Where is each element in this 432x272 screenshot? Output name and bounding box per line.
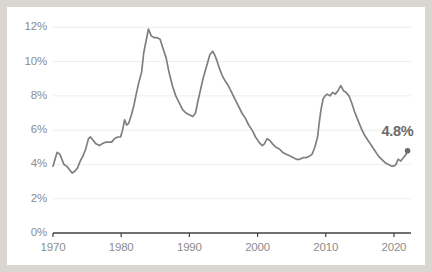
x-axis-tick-label: 2020 [371,241,417,253]
series-line-unemployment-rate [53,29,408,173]
chart-frame: 0%2%4%6%8%10%12% 19701980199020002010202… [0,0,432,272]
chart-plate: 0%2%4%6%8%10%12% 19701980199020002010202… [7,7,425,265]
y-axis-tick-label: 8% [7,89,47,101]
y-axis-tick-label: 2% [7,192,47,204]
gridlines [53,27,411,198]
y-axis-tick-label: 12% [7,20,47,32]
y-axis-tick-label: 0% [7,226,47,238]
y-axis-tick-label: 10% [7,55,47,67]
line-chart [7,7,425,265]
end-point-marker [405,148,411,154]
x-axis-tick-label: 2010 [303,241,349,253]
y-axis-tick-label: 6% [7,123,47,135]
x-axis-tick-label: 1970 [30,241,76,253]
y-axis-tick-label: 4% [7,157,47,169]
x-axis-tick-label: 2000 [235,241,281,253]
x-axis-tick-label: 1990 [166,241,212,253]
end-value-callout: 4.8% [382,123,414,139]
x-axis-tick-label: 1980 [98,241,144,253]
